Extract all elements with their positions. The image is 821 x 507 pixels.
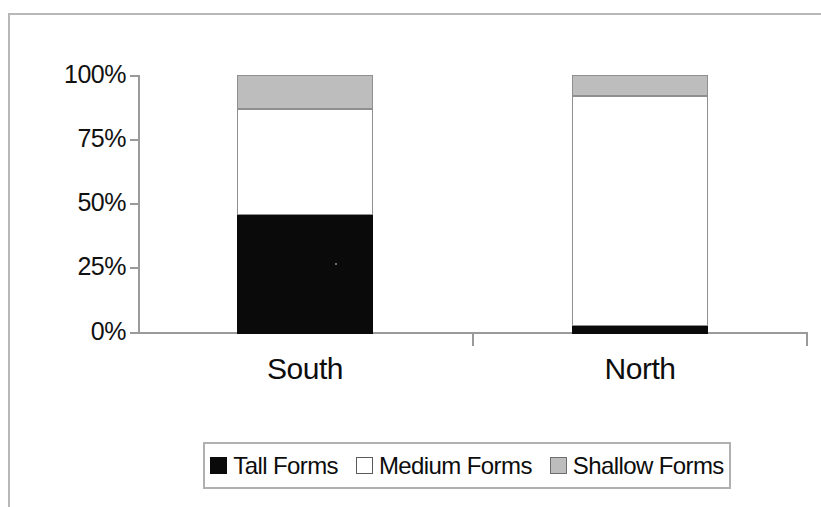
legend-label-tall-forms: Tall Forms: [233, 454, 338, 478]
legend-item-tall-forms[interactable]: Tall Forms: [210, 454, 338, 478]
plot-area: 100% 75% 50% 25% 0% S: [0, 0, 821, 507]
white-square-icon: [356, 457, 373, 474]
bar-north[interactable]: [572, 75, 708, 334]
y-axis-tick-50: [130, 203, 138, 205]
gray-square-icon: [550, 457, 567, 474]
chart-legend: Tall Forms Medium Forms Shallow Forms: [203, 442, 731, 489]
y-axis-label-100-wrap: 100%: [0, 62, 126, 88]
y-axis-label-75-wrap: 75%: [0, 126, 126, 152]
y-axis-label-0-wrap: 0%: [0, 319, 126, 345]
y-axis-label-25: 25%: [6, 254, 126, 279]
x-axis-tick-separator: [472, 334, 474, 346]
bar-south-segment-tall-forms[interactable]: [237, 215, 373, 334]
y-axis-tick-75: [130, 139, 138, 141]
y-axis-label-25-wrap: 25%: [0, 254, 126, 280]
bar-north-segment-medium-forms[interactable]: [572, 96, 708, 327]
legend-label-shallow-forms: Shallow Forms: [573, 454, 724, 478]
bar-south[interactable]: [237, 75, 373, 334]
y-axis-label-50: 50%: [6, 190, 126, 215]
y-axis-label-100: 100%: [6, 62, 126, 87]
bar-south-segment-medium-forms[interactable]: [237, 109, 373, 215]
scan-speck: [335, 263, 337, 265]
bar-north-segment-shallow-forms[interactable]: [572, 75, 708, 96]
y-axis-tick-100: [130, 75, 138, 77]
bar-north-segment-tall-forms[interactable]: [572, 326, 708, 334]
y-axis-label-75: 75%: [6, 126, 126, 151]
x-axis-category-label-south: South: [225, 354, 385, 384]
y-axis-line: [138, 75, 140, 334]
chart-root: 100% 75% 50% 25% 0% S: [0, 0, 821, 507]
legend-label-medium-forms: Medium Forms: [379, 454, 532, 478]
y-axis-label-0: 0%: [6, 319, 126, 344]
y-axis-tick-0: [130, 332, 138, 334]
black-square-icon: [210, 457, 227, 474]
legend-item-medium-forms[interactable]: Medium Forms: [356, 454, 532, 478]
x-axis-category-label-north: North: [560, 354, 720, 384]
bar-south-segment-shallow-forms[interactable]: [237, 75, 373, 109]
y-axis-tick-25: [130, 267, 138, 269]
y-axis-label-50-wrap: 50%: [0, 190, 126, 216]
legend-item-shallow-forms[interactable]: Shallow Forms: [550, 454, 724, 478]
x-axis-tick-end: [806, 334, 808, 346]
